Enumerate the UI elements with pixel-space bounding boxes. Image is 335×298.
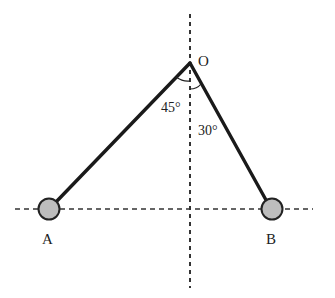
pivot-label-o: O xyxy=(198,53,209,69)
ball-label-b: B xyxy=(266,231,276,247)
rod-oa xyxy=(56,63,190,202)
angle-arc-30 xyxy=(190,84,201,89)
ball-label-a: A xyxy=(42,231,53,247)
angle-label-30: 30° xyxy=(198,123,218,138)
angle-label-45: 45° xyxy=(161,100,181,115)
ball-b xyxy=(262,199,283,220)
ball-a xyxy=(39,199,60,220)
pendulum-diagram: O 45° 30° A B xyxy=(0,0,335,298)
